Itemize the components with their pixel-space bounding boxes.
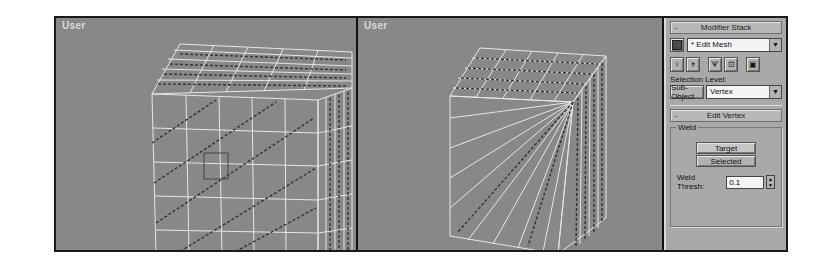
configure-sets-icon: ▣ [749, 60, 757, 69]
weld-thresh-spinner[interactable]: ▲▼ [766, 175, 775, 189]
collapse-sign: - [675, 110, 678, 121]
show-end-result-button[interactable]: Ϯ [686, 57, 700, 72]
modifier-list-value: * Edit Mesh [691, 40, 732, 49]
make-unique-button[interactable]: ᗐ [708, 57, 722, 72]
viewport-user-right[interactable]: User [358, 18, 664, 250]
viewport-label[interactable]: User [62, 20, 85, 31]
weld-thresh-label: Weld Thresh: [677, 173, 724, 191]
configure-sets-button[interactable]: ▣ [746, 57, 760, 72]
max-window-frame: User U [54, 16, 788, 252]
remove-modifier-icon: ⊡ [728, 60, 735, 69]
viewport-label[interactable]: User [364, 20, 387, 31]
collapse-sign: - [675, 22, 678, 33]
command-panel: - Modifier Stack * Edit Mesh ▼ ♀ Ϯ ᗐ ⊡ ▣… [664, 18, 786, 250]
pin-icon: ♀ [674, 60, 680, 69]
sub-object-button[interactable]: Sub-Object [670, 85, 704, 99]
weld-selected-button[interactable]: Selected [696, 155, 756, 167]
modifier-list-dropdown[interactable]: * Edit Mesh ▼ [687, 38, 782, 52]
cube-mesh-after-weld [358, 18, 662, 250]
rollout-title: Modifier Stack [701, 23, 752, 32]
show-end-result-icon: Ϯ [691, 60, 695, 69]
weld-target-button[interactable]: Target [696, 142, 756, 154]
chevron-down-icon: ▼ [769, 39, 781, 51]
separator [670, 105, 782, 106]
sub-object-level-value: Vertex [710, 87, 733, 96]
cube-mesh-before-weld [56, 18, 356, 250]
pin-button[interactable]: ♀ [670, 57, 684, 72]
rollout-title: Edit Vertex [707, 111, 746, 120]
pin-stack-button[interactable] [670, 38, 684, 52]
chevron-down-icon: ▼ [769, 86, 781, 98]
modifier-stack-rollout-header[interactable]: - Modifier Stack [670, 21, 782, 34]
weld-thresh-input[interactable]: 0.1 [726, 176, 764, 189]
pin-stack-icon [672, 40, 682, 50]
weld-group: Weld Target Selected Weld Thresh: 0.1 ▲▼ [670, 127, 782, 227]
weld-group-title: Weld [676, 123, 698, 132]
edit-vertex-rollout-header[interactable]: - Edit Vertex [670, 109, 782, 122]
sub-object-level-dropdown[interactable]: Vertex ▼ [706, 85, 782, 99]
make-unique-icon: ᗐ [711, 60, 719, 70]
remove-modifier-button[interactable]: ⊡ [724, 57, 738, 72]
viewport-user-left[interactable]: User [56, 18, 358, 250]
